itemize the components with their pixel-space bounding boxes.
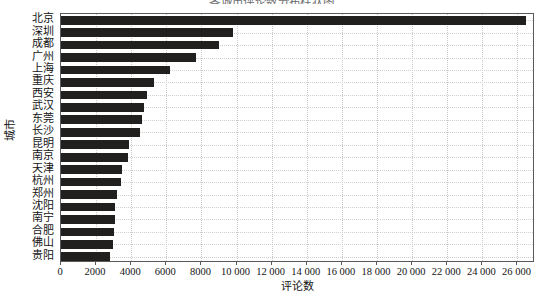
x-axis-tick-label: 12 000	[256, 266, 285, 277]
y-axis-tick-label: 上海	[32, 63, 54, 74]
x-axis-tick-mark	[341, 262, 342, 265]
bar	[61, 28, 233, 37]
y-axis-tick-label: 深圳	[32, 26, 54, 37]
x-axis-tick-mark	[376, 262, 377, 265]
gridline-horizontal	[61, 207, 533, 208]
bar	[61, 215, 115, 224]
gridline-vertical	[201, 14, 202, 261]
x-axis-tick-label: 4000	[120, 266, 141, 277]
bar	[61, 140, 129, 149]
x-axis-tick-label: 24 000	[467, 266, 496, 277]
gridline-vertical	[377, 14, 378, 261]
bar	[61, 78, 154, 87]
y-axis-tick-label: 贵阳	[32, 250, 54, 261]
chart-figure: 各城市评论数分布柱状图 北京深圳成都广州上海重庆西安武汉东莞长沙昆明南京天津杭州…	[0, 0, 544, 299]
gridline-horizontal	[61, 182, 533, 183]
gridline-horizontal	[61, 170, 533, 171]
x-axis-tick-mark	[516, 262, 517, 265]
y-axis-tick-label: 武汉	[32, 100, 54, 111]
gridline-vertical	[96, 14, 97, 261]
y-axis-tick-label: 郑州	[32, 188, 54, 199]
gridline-horizontal	[61, 232, 533, 233]
x-axis-tick-mark	[271, 262, 272, 265]
y-axis-tick-label: 天津	[32, 163, 54, 174]
x-axis-tick-mark	[306, 262, 307, 265]
x-axis-tick-label: 2000	[85, 266, 106, 277]
bar	[61, 228, 114, 237]
gridline-horizontal	[61, 219, 533, 220]
x-axis-tick-mark	[60, 262, 61, 265]
gridline-vertical	[412, 14, 413, 261]
gridline-vertical	[272, 14, 273, 261]
bar	[61, 16, 526, 25]
bar	[61, 53, 196, 62]
bar	[61, 66, 170, 75]
gridline-horizontal	[61, 145, 533, 146]
x-axis-tick-mark	[130, 262, 131, 265]
y-axis-tick-label: 合肥	[32, 225, 54, 236]
gridline-vertical	[342, 14, 343, 261]
y-axis-tick-label: 重庆	[32, 75, 54, 86]
y-axis-tick-label: 沈阳	[32, 200, 54, 211]
gridline-vertical	[131, 14, 132, 261]
y-axis-tick-label: 昆明	[32, 138, 54, 149]
gridline-vertical	[166, 14, 167, 261]
bar	[61, 252, 110, 261]
y-axis-tick-label: 东莞	[32, 113, 54, 124]
y-axis-tick-label: 南京	[32, 150, 54, 161]
bar	[61, 91, 147, 100]
y-axis-tick-label: 西安	[32, 88, 54, 99]
x-axis-tick-mark	[411, 262, 412, 265]
bar	[61, 190, 117, 199]
bar	[61, 128, 140, 137]
gridline-horizontal	[61, 257, 533, 258]
bar	[61, 240, 113, 249]
x-axis-tick-mark	[165, 262, 166, 265]
y-axis-tick-label: 南宁	[32, 212, 54, 223]
y-axis-tick-label: 杭州	[32, 175, 54, 186]
x-axis-tick-mark	[236, 262, 237, 265]
x-axis-tick-mark	[481, 262, 482, 265]
x-axis-tick-label: 0	[57, 266, 62, 277]
y-axis-title: 城市	[1, 110, 17, 150]
x-axis-tick-label: 22 000	[432, 266, 461, 277]
bar	[61, 178, 121, 187]
x-axis-tick-label: 26 000	[502, 266, 531, 277]
x-axis-tick-label: 8000	[190, 266, 211, 277]
bar	[61, 115, 142, 124]
chart-title: 各城市评论数分布柱状图	[0, 0, 544, 4]
y-axis-tick-label: 广州	[32, 51, 54, 62]
x-axis-tick-label: 6000	[155, 266, 176, 277]
y-axis-tick-label: 长沙	[32, 125, 54, 136]
y-axis-tick-label: 佛山	[32, 237, 54, 248]
gridline-horizontal	[61, 244, 533, 245]
x-axis-tick-label: 16 000	[326, 266, 355, 277]
y-axis-tick-label: 北京	[32, 13, 54, 24]
bar	[61, 153, 128, 162]
gridline-vertical	[237, 14, 238, 261]
y-axis-tick-label: 成都	[32, 38, 54, 49]
x-axis-tick-label: 10 000	[221, 266, 250, 277]
gridline-vertical	[517, 14, 518, 261]
gridline-vertical	[307, 14, 308, 261]
gridline-horizontal	[61, 157, 533, 158]
x-axis-tick-mark	[446, 262, 447, 265]
bar	[61, 41, 219, 50]
x-axis-tick-label: 14 000	[291, 266, 320, 277]
plot-area	[60, 13, 534, 262]
bar	[61, 103, 144, 112]
x-axis-tick-mark	[95, 262, 96, 265]
x-axis-tick-mark	[200, 262, 201, 265]
x-axis-tick-label: 20 000	[397, 266, 426, 277]
x-axis-tick-label: 18 000	[362, 266, 391, 277]
x-axis-title: 评论数	[60, 277, 534, 293]
bar	[61, 165, 122, 174]
bar	[61, 203, 115, 212]
gridline-vertical	[482, 14, 483, 261]
gridline-vertical	[447, 14, 448, 261]
gridline-horizontal	[61, 195, 533, 196]
